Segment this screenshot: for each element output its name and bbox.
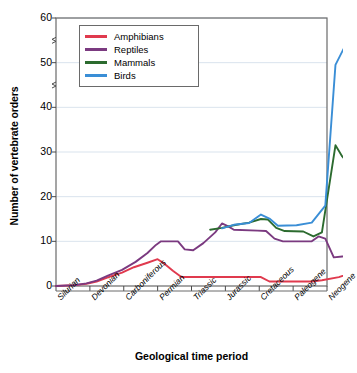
legend-item: Amphibians [85, 30, 192, 43]
legend-color-swatch [85, 35, 107, 38]
legend-label: Reptiles [114, 45, 148, 55]
series-line-mammals [210, 145, 343, 236]
chart-legend: AmphibiansReptilesMammalsBirds [79, 25, 199, 87]
series-line-birds [222, 22, 343, 228]
legend-label: Amphibians [114, 32, 164, 42]
legend-item: Reptiles [85, 43, 192, 56]
series-line-amphibians [56, 259, 343, 286]
x-axis-title: Geological time period [56, 350, 327, 362]
legend-color-swatch [85, 74, 107, 77]
legend-item: Mammals [85, 56, 192, 69]
legend-color-swatch [85, 48, 107, 51]
legend-label: Mammals [114, 58, 155, 68]
legend-item: Birds [85, 69, 192, 82]
legend-label: Birds [114, 71, 136, 81]
legend-color-swatch [85, 61, 107, 64]
